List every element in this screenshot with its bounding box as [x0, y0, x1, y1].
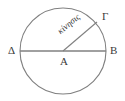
vertex-label-gamma: Γ — [102, 11, 108, 22]
geometric-figure: Δ B Γ A κίνησις — [0, 0, 125, 101]
center-label-a: A — [60, 56, 68, 67]
vertex-label-delta: Δ — [8, 45, 15, 56]
vertex-label-b: B — [110, 45, 117, 56]
